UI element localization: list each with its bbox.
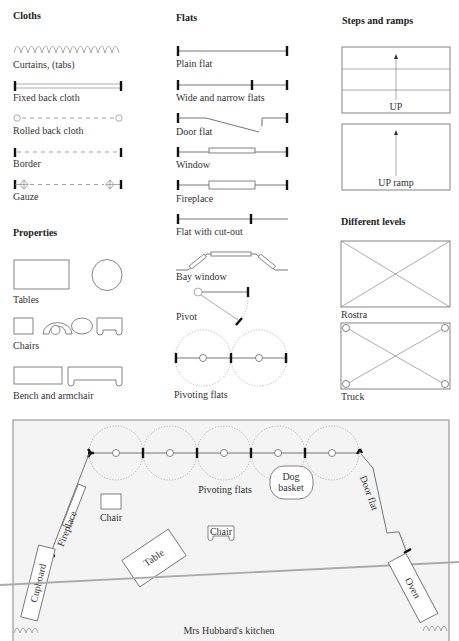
cloths-section: Cloths Curtains, (tabs) Fixed back cloth… xyxy=(13,10,122,202)
rolled-back-cloth-label: Rolled back cloth xyxy=(13,125,84,136)
flat-cutout-label: Flat with cut-out xyxy=(176,226,243,237)
pivoting-flats-symbol xyxy=(175,330,287,386)
flat-cutout-symbol xyxy=(178,214,288,224)
pivoting-flats-label: Pivoting flats xyxy=(174,389,228,400)
properties-section: Properties Tables Chairs Bench and armch… xyxy=(13,227,122,401)
border-label: Border xyxy=(13,158,41,169)
dog-basket-label-1: Dog xyxy=(282,471,299,482)
bay-window-symbol xyxy=(176,252,288,270)
wide-narrow-flats-label: Wide and narrow flats xyxy=(176,92,265,103)
flats-heading: Flats xyxy=(176,12,197,23)
gauze-symbol xyxy=(15,180,121,189)
plan-pivoting-flats-label: Pivoting flats xyxy=(198,484,252,495)
tub-chair-seat xyxy=(51,326,60,335)
tables-label: Tables xyxy=(13,294,39,305)
plain-flat-label: Plain flat xyxy=(176,58,213,69)
chairs-label: Chairs xyxy=(13,340,39,351)
properties-heading: Properties xyxy=(13,227,57,238)
oval-chair-symbol xyxy=(72,318,93,334)
rolled-back-cloth-symbol xyxy=(14,115,122,121)
wide-narrow-flats-symbol xyxy=(178,80,287,90)
door-flat-label: Door flat xyxy=(176,126,213,137)
window-label: Window xyxy=(176,159,211,170)
pivot-label: Pivot xyxy=(176,311,197,322)
rostra-label: Rostra xyxy=(341,309,368,320)
truck-symbol xyxy=(341,323,450,389)
steps-heading: Steps and ramps xyxy=(342,15,413,26)
curtains-symbol xyxy=(14,46,119,53)
bay-window-label: Bay window xyxy=(176,271,228,282)
fixed-back-cloth-symbol xyxy=(15,81,121,91)
steps-up-label: UP xyxy=(390,101,403,112)
fireplace-label: Fireplace xyxy=(176,193,214,204)
flats-section: Flats Plain flat Wide and narrow flats D… xyxy=(174,12,288,400)
truck-label: Truck xyxy=(341,391,365,402)
square-chair-symbol xyxy=(14,318,33,334)
rostra-symbol xyxy=(341,241,450,307)
pivot-symbol xyxy=(194,287,248,325)
plan-title: Mrs Hubbard's kitchen xyxy=(183,625,274,636)
round-table-symbol xyxy=(92,260,122,291)
steps-ramps-section: Steps and ramps UP UP ramp xyxy=(342,15,450,190)
armchair-symbol xyxy=(97,318,122,335)
gauze-label: Gauze xyxy=(13,191,39,202)
bench-armchair-label: Bench and armchair xyxy=(13,390,94,401)
fixed-back-cloth-label: Fixed back cloth xyxy=(13,92,80,103)
stage-symbols-diagram: Cloths Curtains, (tabs) Fixed back cloth… xyxy=(0,0,459,641)
kitchen-plan: Pivoting flats Dog basket Fireplace Cupb… xyxy=(0,420,459,641)
fireplace-symbol xyxy=(178,180,287,190)
plan-chair-square xyxy=(101,494,121,509)
rect-table-symbol xyxy=(14,260,69,289)
dog-basket: Dog basket xyxy=(270,466,313,499)
border-symbol xyxy=(15,148,121,157)
plain-flat-symbol xyxy=(178,46,287,56)
plan-chair-label-2: Chair xyxy=(210,526,233,537)
long-armchair-symbol xyxy=(68,367,122,386)
levels-heading: Different levels xyxy=(341,216,406,227)
ramp-up-label: UP ramp xyxy=(378,177,413,188)
window-symbol xyxy=(178,147,287,157)
levels-section: Different levels Rostra Truck xyxy=(341,216,450,402)
bench-symbol xyxy=(14,367,62,384)
plan-chair-label-1: Chair xyxy=(100,512,123,523)
curtains-label: Curtains, (tabs) xyxy=(13,59,75,71)
cloths-heading: Cloths xyxy=(13,10,41,21)
dog-basket-label-2: basket xyxy=(278,482,304,493)
